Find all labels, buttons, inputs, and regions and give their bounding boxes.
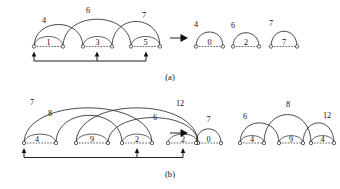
node-label-9: 9 <box>90 135 94 144</box>
graph-node <box>129 45 132 48</box>
graph-node <box>74 141 77 144</box>
bracket-rail <box>24 153 183 158</box>
node-label-3: 3 <box>95 38 99 47</box>
panel-a-transform-arrow <box>170 34 188 42</box>
group-arc-6 <box>240 123 279 143</box>
graph-node <box>219 141 222 144</box>
graph-node <box>332 141 335 144</box>
group-node-label-4a: 4 <box>250 135 254 144</box>
arc-label-7-out: 7 <box>206 115 210 124</box>
arc-label-8: 8 <box>48 109 52 118</box>
arc-label-7: 7 <box>142 11 146 20</box>
panel-b-left-graph: 4 9 2 2 7 8 6 12 <box>22 98 200 158</box>
graph-node <box>166 141 169 144</box>
graph-node <box>106 141 109 144</box>
long-arc-4 <box>34 24 83 46</box>
graph-node <box>262 141 265 144</box>
graph-node <box>257 45 260 48</box>
arc-label-7-out: 7 <box>269 19 273 28</box>
graph-node <box>22 141 25 144</box>
graph-node <box>231 45 234 48</box>
group-node-label-4b: 4 <box>320 135 324 144</box>
graph-node <box>295 45 298 48</box>
graph-node <box>194 45 197 48</box>
graph-node <box>54 141 57 144</box>
graph-node <box>110 45 113 48</box>
bracket-rail <box>34 56 146 61</box>
arc-label-4: 4 <box>42 16 46 25</box>
graph-node <box>32 45 35 48</box>
panel-a-bracket <box>32 52 149 62</box>
graph-node <box>277 141 280 144</box>
arc-label-12: 12 <box>176 99 184 108</box>
figure-root: 1 3 5 4 6 7 <box>0 0 340 189</box>
long-arc-7 <box>24 108 152 143</box>
group-node-label-9: 9 <box>289 135 293 144</box>
group-arc-12 <box>303 123 334 143</box>
node-label-4: 4 <box>35 135 39 144</box>
caption-a: (a) <box>165 72 175 82</box>
node-label-2-out: 2 <box>244 38 248 47</box>
graph-node <box>309 141 312 144</box>
bracket-arrow-up <box>32 52 37 57</box>
bracket-arrow-up <box>95 52 100 57</box>
graph-node <box>269 45 272 48</box>
caption-b: (b) <box>165 169 175 179</box>
graph-node <box>81 45 84 48</box>
node-label-2a: 2 <box>135 135 139 144</box>
graph-node <box>158 45 161 48</box>
node-label-0-out: 0 <box>206 135 210 144</box>
bracket-arrow-up <box>181 148 186 153</box>
graph-node <box>301 141 304 144</box>
arc-label-6-out: 6 <box>231 21 235 30</box>
bracket-arrow-up <box>22 148 27 153</box>
panel-b-right-graph: 7 0 6 8 12 4 9 4 <box>194 100 335 145</box>
node-label-0-out: 0 <box>207 38 211 47</box>
group-arc-label-6: 6 <box>243 112 247 121</box>
arc-label-7: 7 <box>30 98 34 107</box>
group-arc-label-8: 8 <box>286 100 290 109</box>
node-label-7-out: 7 <box>282 38 286 47</box>
arc-diagram-figure: 1 3 5 4 6 7 <box>0 0 340 189</box>
arrow-head <box>181 34 189 42</box>
panel-a-right-graph: 4 0 6 2 7 7 <box>194 19 299 48</box>
node-label-1: 1 <box>46 38 50 47</box>
group-arc-8 <box>264 115 311 144</box>
arc-label-6: 6 <box>86 6 90 15</box>
graph-node <box>194 141 197 144</box>
arc-label-6: 6 <box>153 113 157 122</box>
graph-node <box>61 45 64 48</box>
graph-node <box>238 141 241 144</box>
graph-node <box>120 141 123 144</box>
graph-node <box>221 45 224 48</box>
panel-a-left-graph: 1 3 5 4 6 7 <box>32 6 162 61</box>
panel-b-bracket <box>22 148 186 158</box>
graph-node <box>150 141 153 144</box>
bracket-arrow-up <box>135 148 140 153</box>
arc-label-4-out: 4 <box>194 20 198 29</box>
group-arc-label-12: 12 <box>323 111 331 120</box>
node-label-5: 5 <box>143 38 147 47</box>
pair-arc <box>24 134 56 143</box>
bracket-arrow-up <box>144 52 149 57</box>
